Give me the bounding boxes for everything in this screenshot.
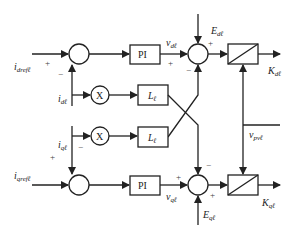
vpv-label: vpvℓ	[249, 129, 263, 142]
iqref-label: iqrefℓ	[14, 170, 31, 183]
sum-junction-d-error	[69, 44, 89, 64]
idref-label: idrefℓ	[14, 61, 31, 74]
sum4-plus-sign-pi: +	[176, 172, 181, 182]
kd-label: Kdℓ	[267, 65, 281, 78]
kq-label: Kqℓ	[261, 197, 275, 210]
iq-label: iqℓ	[58, 139, 67, 152]
sum1-minus-sign: −	[58, 69, 63, 79]
sum2-plus-sign-pi: +	[168, 58, 173, 68]
cross-coupling-d-to-q	[168, 95, 198, 174]
cross-coupling-q-to-d	[168, 65, 198, 137]
vq-label: vqℓ	[166, 191, 177, 204]
control-block-diagram: idrefℓ + − PI vdℓ + Edℓ + − Kdℓ idℓ X Lℓ…	[0, 0, 295, 239]
sum4-minus-sign: −	[206, 160, 211, 170]
sum-junction-q-error	[69, 175, 89, 195]
vd-label: vdℓ	[166, 37, 177, 50]
sum1-plus-sign: +	[45, 58, 50, 68]
pi-d-label: PI	[138, 49, 147, 60]
sum2-minus-sign: −	[186, 65, 191, 75]
mult-d-label: X	[96, 90, 104, 101]
sum-junction-d-output	[188, 44, 208, 64]
sum3-plus-sign: +	[50, 152, 55, 162]
sum4-plus-sign-e: +	[210, 190, 215, 200]
eq-label: Eqℓ	[202, 209, 216, 222]
mult-q-label: X	[96, 131, 104, 142]
mult-q-minus-sign: −	[78, 142, 83, 152]
id-label: idℓ	[58, 93, 67, 106]
pi-q-label: PI	[138, 180, 147, 191]
ed-label: Edℓ	[210, 25, 224, 38]
sum2-plus-sign-e: +	[208, 38, 213, 48]
sum-junction-q-output	[188, 175, 208, 195]
